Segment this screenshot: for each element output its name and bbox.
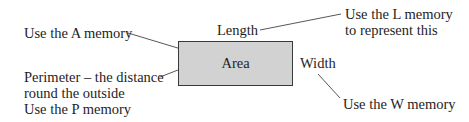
width-label: Width <box>300 55 336 71</box>
a-memory-label: Use the A memory <box>24 25 132 41</box>
length-label: Length <box>217 22 258 38</box>
l-memory-label-line2: to represent this <box>345 22 438 38</box>
area-label: Area <box>179 55 292 72</box>
perimeter-label-line3: Use the P memory <box>24 101 131 117</box>
l-memory-label-line1: Use the L memory <box>345 6 453 22</box>
length-leader <box>260 14 341 30</box>
perimeter-label-line2: round the outside <box>24 85 125 101</box>
area-rectangle: Area <box>178 41 293 86</box>
w-memory-label: Use the W memory <box>343 96 456 112</box>
width-leader <box>318 74 340 98</box>
perimeter-label-line1: Perimeter – the distance <box>24 69 164 85</box>
